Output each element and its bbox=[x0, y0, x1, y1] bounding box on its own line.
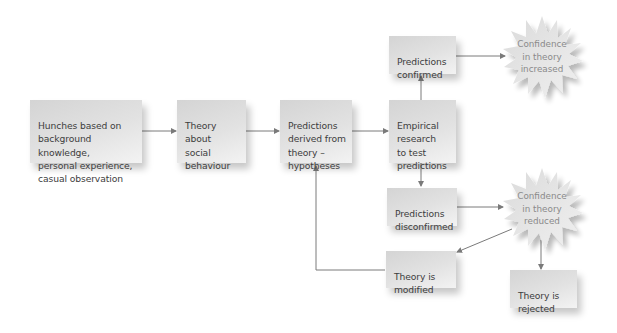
node-predictions-disconfirmed: Predictions disconfirmed bbox=[387, 188, 457, 226]
research-process-diagram: Hunches based on background knowledge, p… bbox=[0, 0, 617, 333]
node-hypotheses-label: Predictions derived from theory – hypoth… bbox=[288, 120, 346, 171]
node-predictions-confirmed: Predictions confirmed bbox=[389, 36, 456, 74]
node-hunches: Hunches based on background knowledge, p… bbox=[30, 100, 142, 163]
node-theory-rejected-label: Theory is rejected bbox=[518, 290, 559, 314]
node-confidence-increased-label: Confidence in theory increased bbox=[501, 14, 583, 100]
node-theory-label: Theory about social behaviour bbox=[185, 120, 230, 171]
node-confidence-reduced: Confidence in theory reduced bbox=[501, 166, 583, 252]
node-hunches-label: Hunches based on background knowledge, p… bbox=[38, 120, 132, 184]
node-confidence-reduced-label: Confidence in theory reduced bbox=[501, 166, 583, 252]
arrow-modified-to-hypotheses bbox=[316, 166, 385, 270]
node-confidence-increased: Confidence in theory increased bbox=[501, 14, 583, 100]
node-predictions-disconfirmed-label: Predictions disconfirmed bbox=[395, 208, 453, 232]
node-theory-modified: Theory is modified bbox=[386, 251, 456, 288]
node-theory-rejected: Theory is rejected bbox=[510, 270, 577, 308]
node-theory-modified-label: Theory is modified bbox=[394, 271, 435, 295]
node-empirical-research-label: Empirical research to test predictions bbox=[397, 120, 447, 171]
node-hypotheses: Predictions derived from theory – hypoth… bbox=[280, 100, 352, 163]
node-theory: Theory about social behaviour bbox=[177, 100, 246, 163]
node-predictions-confirmed-label: Predictions confirmed bbox=[397, 56, 446, 80]
node-empirical-research: Empirical research to test predictions bbox=[389, 100, 456, 163]
